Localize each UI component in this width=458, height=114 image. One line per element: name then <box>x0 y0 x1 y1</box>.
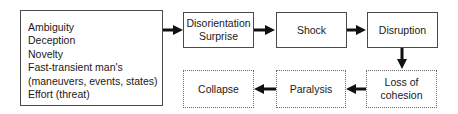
node-label: Surprise <box>199 30 238 43</box>
causes-list: Ambiguity Deception Novelty Fast-transie… <box>28 21 158 101</box>
node-loss-of-cohesion: Loss of cohesion <box>366 70 437 108</box>
arrow-down-icon <box>396 48 408 70</box>
node-shock: Shock <box>276 12 347 48</box>
node-label: Loss of <box>385 76 419 89</box>
arrow-right-icon <box>347 24 367 36</box>
cause-item: Ambiguity <box>28 21 158 34</box>
node-label: Paralysis <box>290 83 333 96</box>
arrow-right-icon <box>254 24 276 36</box>
node-label: Disruption <box>379 24 426 37</box>
node-label: Collapse <box>198 83 239 96</box>
causes-box: Ambiguity Deception Novelty Fast-transie… <box>20 10 163 106</box>
node-paralysis: Paralysis <box>276 70 346 108</box>
cause-item: (maneuvers, events, states) <box>28 75 158 88</box>
cause-item: Deception <box>28 34 158 47</box>
node-label: Disorientation <box>186 17 250 30</box>
node-label: cohesion <box>380 89 422 102</box>
arrow-right-icon <box>163 24 184 36</box>
arrow-left-icon <box>254 83 276 95</box>
node-label: Shock <box>297 24 326 37</box>
cause-item: Novelty <box>28 48 158 61</box>
arrow-left-icon <box>346 83 366 95</box>
cause-item: Effort (threat) <box>28 88 158 101</box>
node-disorientation: Disorientation Surprise <box>183 12 254 48</box>
node-disruption: Disruption <box>367 12 438 48</box>
node-collapse: Collapse <box>183 70 254 108</box>
cause-item: Fast-transient man's <box>28 61 158 74</box>
